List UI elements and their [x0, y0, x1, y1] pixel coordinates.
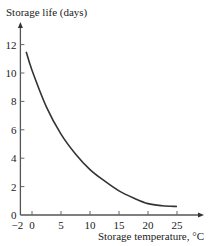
x-axis-title: Storage temperature, °C	[98, 230, 204, 242]
y-tick-label: 10	[5, 67, 17, 79]
y-ticks: 024681012	[5, 39, 24, 221]
series-group	[26, 52, 177, 207]
y-axis-arrow-icon	[18, 22, 23, 28]
chart: −20510152025 024681012 Storage life (day…	[0, 0, 208, 246]
x-tick-label: 10	[85, 219, 97, 231]
y-tick-label: 12	[5, 39, 16, 51]
y-tick-label: 0	[11, 209, 17, 221]
x-ticks: −20510152025	[12, 211, 183, 231]
y-tick-label: 4	[11, 152, 17, 164]
x-axis-arrow-icon	[198, 213, 204, 218]
y-tick-label: 8	[11, 95, 17, 107]
x-tick-label: 5	[58, 219, 64, 231]
y-tick-label: 2	[11, 181, 17, 193]
x-tick-label: 0	[29, 219, 35, 231]
y-tick-label: 6	[11, 124, 17, 136]
axes	[18, 22, 204, 218]
y-axis-title: Storage life (days)	[6, 6, 88, 19]
series-line-storage-life	[26, 52, 177, 207]
